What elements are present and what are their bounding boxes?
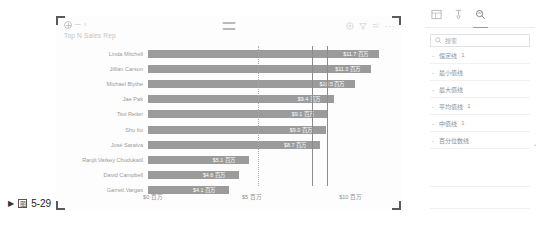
analytics-item-count: 1 (461, 120, 464, 126)
chart-bar-row[interactable]: Jae Pak$9.4 百万 (64, 94, 393, 104)
analytics-item-label: 最小值线 (439, 68, 463, 77)
bar-track: $4.6 百万 (148, 170, 393, 180)
bar[interactable] (148, 171, 239, 179)
chart-bar-row[interactable]: Tsvi Reiter$9.1 百万 (64, 109, 393, 119)
pane-empty-section-2 (430, 187, 530, 209)
analytics-item-label: 百分位数线 (439, 136, 469, 145)
search-icon (435, 37, 442, 45)
minus-icon: ─ (75, 21, 81, 29)
bar-track: $11.3 百万 (148, 64, 393, 74)
chart-bar-row[interactable]: David Campbell$4.6 百万 (64, 170, 393, 180)
chart-bar-row[interactable]: Shu Ito$9.0 百万 (64, 125, 393, 135)
visual-header: ─ ▫ Top N Sales Rep · (64, 20, 395, 44)
bar-track: $9.1 百万 (148, 109, 393, 119)
bar-value-label: $5.1 百万 (213, 156, 235, 164)
analytics-item-label: 恒定线 (439, 51, 457, 60)
x-axis-tick-label: $5 百万 (242, 193, 262, 201)
analytics-item-label: 最大值线 (439, 85, 463, 94)
analytics-tab[interactable] (475, 6, 486, 24)
chevron-down-icon[interactable]: ⌄ (431, 138, 435, 143)
bar-track: $8.7 百万 (148, 140, 393, 150)
caption-fig-icon: 图 (18, 199, 27, 208)
page-edge-mark: • (534, 142, 536, 148)
bar-category-label: Jillian Carson (64, 66, 148, 72)
chevron-down-icon[interactable]: ⌄ (431, 70, 435, 75)
analytics-item-3[interactable]: ⌄最大值线 (430, 81, 530, 98)
bar-category-label: José Saraiva (64, 142, 148, 148)
analytics-item-6[interactable]: ⌄百分位数线 (430, 132, 530, 149)
small-glyph-icon: ▫ (84, 21, 87, 29)
report-visual-container[interactable]: ─ ▫ Top N Sales Rep · (56, 16, 401, 210)
x-axis-tick-label: $10 百万 (339, 193, 362, 201)
caption-arrow-icon: ▶ (8, 199, 14, 208)
add-circle-icon[interactable] (64, 21, 72, 29)
bar-category-label: Ranjit Varkey Chudukatil (64, 157, 148, 163)
bar-track: $10.5 百万 (148, 79, 393, 89)
bar-value-label: $9.0 百万 (290, 126, 312, 134)
search-placeholder: 搜索 (445, 36, 457, 45)
format-tab[interactable] (453, 6, 464, 24)
pane-tab-strip[interactable] (425, 6, 535, 28)
caption-text: 5-29 (31, 198, 51, 209)
figure-caption: ▶ 图 5-29 (8, 198, 51, 209)
bar-value-label: $10.5 百万 (319, 80, 344, 88)
analytics-item-list[interactable]: ⌄恒定线1⌄最小值线⌄最大值线⌄平均值线1⌄中值线1⌄百分位数线 (425, 47, 535, 149)
bar-value-label: $8.7 百万 (284, 141, 306, 149)
median-line[interactable] (327, 46, 328, 186)
chart-bar-row[interactable]: Michael Blythe$10.5 百万 (64, 79, 393, 89)
chevron-down-icon[interactable]: ⌄ (431, 53, 435, 58)
bar-track: $9.4 百万 (148, 94, 393, 104)
focus-mode-icon[interactable] (346, 22, 354, 30)
fields-tab[interactable] (431, 6, 442, 24)
bar-value-label: $9.1 百万 (292, 110, 314, 118)
chart-bar-row[interactable]: Jillian Carson$11.3 百万 (64, 64, 393, 74)
search-input[interactable]: 搜索 (430, 34, 530, 47)
drill-icon[interactable] (372, 22, 380, 30)
bar-value-label: $11.3 百万 (335, 65, 360, 73)
visual-title: Top N Sales Rep (64, 32, 116, 39)
chart-bar-row[interactable]: Linda Mitchell$11.7 百万 (64, 49, 393, 59)
resize-handle-bottom-right[interactable] (392, 201, 401, 210)
filter-icon[interactable] (359, 22, 367, 30)
analytics-item-5[interactable]: ⌄中值线1 (430, 115, 530, 132)
constant-line[interactable] (258, 46, 259, 186)
visual-header-actions[interactable]: ··· (346, 22, 396, 30)
bar-track: $5.1 百万 (148, 155, 393, 165)
bar-category-label: David Campbell (64, 172, 148, 178)
chart-bar-row[interactable]: José Saraiva$8.7 百万 (64, 140, 393, 150)
bar-value-label: $9.4 百万 (298, 95, 320, 103)
chevron-down-icon[interactable]: ⌄ (431, 104, 435, 109)
bar-category-label: Linda Mitchell (64, 51, 148, 57)
pane-empty-section-1 (430, 159, 530, 187)
analytics-item-4[interactable]: ⌄平均值线1 (430, 98, 530, 115)
bar-value-label: $4.6 百万 (203, 171, 225, 179)
bar-category-label: Michael Blythe (64, 81, 148, 87)
more-options-icon[interactable]: ··· (385, 23, 396, 30)
analytics-item-label: 平均值线 (439, 102, 463, 111)
bar-track: $11.7 百万 (148, 49, 393, 59)
chart-bars: Linda Mitchell$11.7 百万Jillian Carson$11.… (64, 48, 393, 186)
average-line[interactable] (312, 46, 313, 186)
analytics-item-1[interactable]: ⌄恒定线1 (430, 47, 530, 64)
bar-category-label: Garrett Vargas (64, 187, 148, 193)
chevron-down-icon[interactable]: ⌄ (431, 87, 435, 92)
chevron-down-icon[interactable]: ⌄ (431, 121, 435, 126)
analytics-item-count: 1 (467, 103, 470, 109)
bar-value-label: $11.7 百万 (343, 50, 368, 58)
visual-header-left-icons: ─ ▫ (64, 21, 87, 29)
chart-plot-area: Linda Mitchell$11.7 百万Jillian Carson$11.… (64, 46, 393, 204)
bar-track: $9.0 百万 (148, 125, 393, 135)
analytics-pane[interactable]: 搜索 ⌄恒定线1⌄最小值线⌄最大值线⌄平均值线1⌄中值线1⌄百分位数线 (425, 6, 535, 166)
x-axis-tick-label: $0 百万 (143, 193, 163, 201)
bar-category-label: Tsvi Reiter (64, 111, 148, 117)
bar-category-label: Shu Ito (64, 127, 148, 133)
chart-bar-row[interactable]: Ranjit Varkey Chudukatil$5.1 百万 (64, 155, 393, 165)
bar-category-label: Jae Pak (64, 96, 148, 102)
analytics-item-label: 中值线 (439, 119, 457, 128)
analytics-item-count: 1 (461, 52, 464, 58)
analytics-item-2[interactable]: ⌄最小值线 (430, 64, 530, 81)
chart-x-axis: $0 百万$5 百万$10 百万 (153, 190, 393, 204)
